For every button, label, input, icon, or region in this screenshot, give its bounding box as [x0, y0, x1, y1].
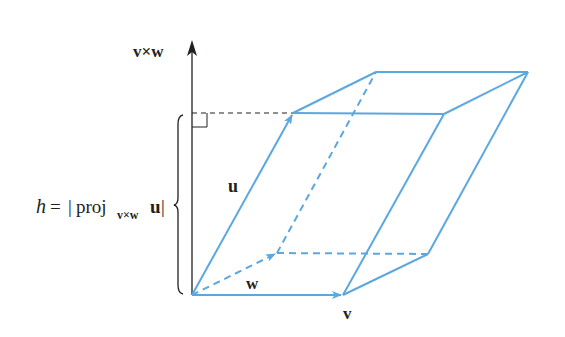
proj-subscript: v×w — [117, 208, 139, 222]
proj-vector-u: u — [150, 196, 161, 217]
edge-w-to-uw — [277, 72, 376, 253]
edge-u-to-uw — [293, 72, 376, 113]
edge-w-to-vw — [277, 253, 428, 254]
visible-edges — [192, 72, 528, 295]
edge-v-to-vw — [343, 254, 428, 295]
edge-u-to-uv — [293, 113, 444, 114]
abs-bar-open: | — [68, 196, 72, 217]
right-angle-marker — [192, 113, 207, 127]
label-u: u — [228, 176, 238, 196]
height-formula: h = | proj v×w u | — [36, 195, 165, 222]
axis-label: v×w — [133, 42, 164, 61]
equals-sign: = — [50, 196, 61, 217]
parallelepiped-diagram: v×w u w v h = | proj v×w u | — [0, 0, 565, 337]
label-v: v — [343, 304, 352, 323]
label-w: w — [246, 274, 259, 293]
abs-bar-close: | — [161, 196, 165, 217]
cross-product-axis — [187, 40, 197, 295]
height-symbol: h — [36, 195, 46, 217]
edge-vw-to-uvw — [428, 72, 528, 254]
proj-text: proj — [76, 196, 107, 217]
height-brace — [174, 115, 183, 294]
vector-u — [192, 115, 292, 295]
edge-v-to-uv — [343, 114, 444, 295]
